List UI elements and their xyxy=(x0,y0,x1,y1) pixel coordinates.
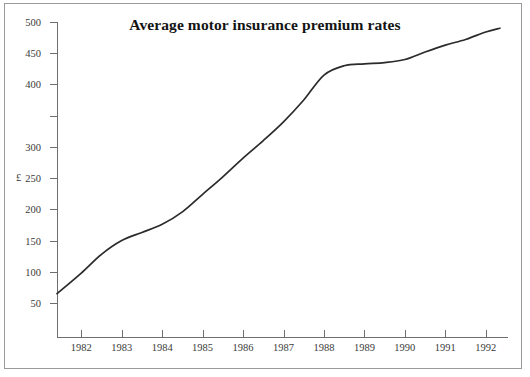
y-tick-label-300: 300 xyxy=(25,141,41,152)
x-tick-label-1983: 1983 xyxy=(111,342,132,353)
x-tick-label-1990: 1990 xyxy=(394,342,415,353)
y-tick-150 xyxy=(50,241,57,242)
y-tick-250 xyxy=(50,178,57,179)
y-tick-label-100: 100 xyxy=(25,266,41,277)
y-tick-50 xyxy=(50,303,57,304)
premium-rate-line xyxy=(57,28,500,293)
y-tick-200 xyxy=(50,209,57,210)
y-tick-label-500: 500 xyxy=(25,17,41,28)
x-tick-label-1982: 1982 xyxy=(71,342,92,353)
y-tick-350 xyxy=(50,116,57,117)
x-tick-label-1988: 1988 xyxy=(313,342,334,353)
y-tick-100 xyxy=(50,272,57,273)
x-tick-label-1985: 1985 xyxy=(192,342,213,353)
y-tick-500 xyxy=(50,22,57,23)
y-tick-label-450: 450 xyxy=(25,48,41,59)
plot-area: 50045040030025020015010050 1982198319841… xyxy=(57,22,508,338)
x-tick-label-1991: 1991 xyxy=(435,342,456,353)
x-tick-label-1992: 1992 xyxy=(475,342,496,353)
x-tick-label-1989: 1989 xyxy=(354,342,375,353)
x-tick-label-1987: 1987 xyxy=(273,342,294,353)
data-series-line xyxy=(57,22,508,338)
y-axis-title: £ xyxy=(16,172,21,183)
y-tick-label-150: 150 xyxy=(25,235,41,246)
y-tick-label-50: 50 xyxy=(31,298,42,309)
y-tick-label-200: 200 xyxy=(25,204,41,215)
chart-page: Average motor insurance premium rates £ … xyxy=(0,0,530,377)
y-tick-300 xyxy=(50,147,57,148)
y-tick-400 xyxy=(50,84,57,85)
y-tick-label-400: 400 xyxy=(25,79,41,90)
y-tick-450 xyxy=(50,53,57,54)
y-tick-label-250: 250 xyxy=(25,173,41,184)
x-tick-label-1986: 1986 xyxy=(233,342,254,353)
x-tick-label-1984: 1984 xyxy=(152,342,173,353)
